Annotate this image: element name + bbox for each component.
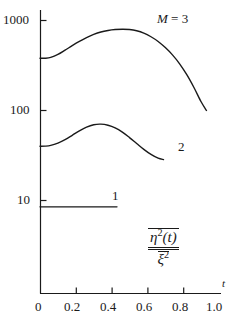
- y-axis-formula-denominator: ξ2: [148, 249, 179, 268]
- chart-plot-area: [0, 0, 232, 326]
- y-tick-label-10: 10: [17, 193, 30, 206]
- xi-exponent: 2: [164, 249, 169, 260]
- x-axis-label: t: [222, 277, 225, 289]
- curve-label-m3-value: 3: [182, 11, 189, 26]
- y-tick-label-100: 100: [10, 103, 30, 116]
- x-tick-label-1.0: 1.0: [206, 300, 222, 313]
- y-tick-label-1000: 1000: [3, 13, 29, 26]
- x-tick-label-0.6: 0.6: [136, 300, 152, 313]
- curve-2: [40, 124, 164, 159]
- curve-label-1: 1: [112, 189, 119, 202]
- y-axis-formula: η2(t) ξ2: [148, 228, 179, 268]
- curve-m3: [40, 29, 206, 110]
- figure-container: 1000 100 10 0 0.2 0.4 0.6 0.8 1.0 t M = …: [0, 0, 232, 326]
- y-axis-formula-numerator: η2(t): [148, 228, 179, 248]
- x-tick-label-0: 0: [35, 300, 42, 313]
- x-tick-label-0.2: 0.2: [64, 300, 80, 313]
- x-tick-label-0.4: 0.4: [100, 300, 116, 313]
- curve-label-m3: M = 3: [157, 12, 188, 25]
- curve-label-2: 2: [178, 140, 185, 153]
- x-tick-label-0.8: 0.8: [172, 300, 188, 313]
- xi-group: ξ2: [158, 251, 170, 268]
- curve-label-m3-eq: =: [168, 11, 182, 26]
- curve-label-m3-prefix: M: [157, 11, 168, 26]
- eta-argument: (t): [163, 229, 177, 245]
